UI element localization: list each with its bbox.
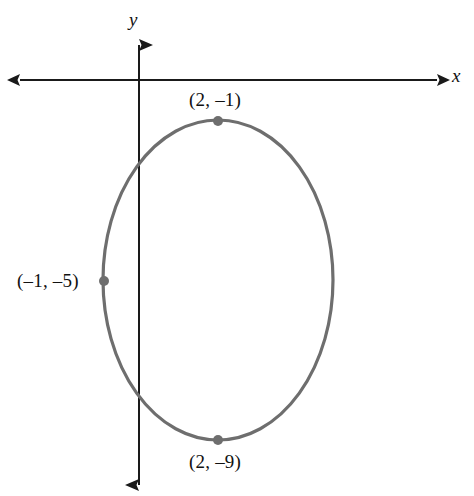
point-label-left-vertex: (–1, –5) <box>17 271 79 290</box>
ellipse-curve <box>103 120 333 440</box>
point-bottom-vertex <box>213 435 223 445</box>
point-label-bottom-vertex: (2, –9) <box>189 452 241 471</box>
y-axis-label: y <box>129 10 137 29</box>
point-top-vertex <box>213 116 223 126</box>
point-left-vertex <box>99 276 109 286</box>
figure-canvas <box>0 0 474 496</box>
x-axis-label: x <box>452 66 460 85</box>
ellipse-figure: (2, –1) (2, –9) (–1, –5) x y <box>0 0 474 496</box>
point-label-top-vertex: (2, –1) <box>189 90 241 109</box>
